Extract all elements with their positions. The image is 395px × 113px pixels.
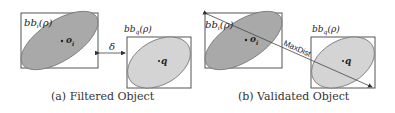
object-ellipse	[12, 0, 108, 81]
object-point	[61, 40, 63, 42]
object-point	[245, 39, 247, 41]
object-box-label: bbi(ρ)	[24, 17, 53, 29]
subfigure-a: bbi(ρ) oi δ bbq(ρ) q	[12, 0, 200, 99]
caption-filtered-object: (a) Filtered Object	[51, 90, 154, 103]
object-ellipse	[196, 0, 292, 81]
query-point-label: q	[345, 56, 351, 66]
maxdist-label: MaxDist	[282, 39, 313, 59]
subfigure-b: bbi(ρ) oi bbq(ρ) q MaxDist	[196, 0, 384, 99]
gap-indicator: δ	[99, 41, 125, 53]
query-point	[158, 60, 160, 62]
query-bounding-box: bbq(ρ) q	[119, 24, 200, 99]
caption-validated-object: (b) Validated Object	[238, 90, 349, 103]
object-bounding-box: bbi(ρ) oi	[12, 0, 108, 81]
gap-label: δ	[109, 41, 115, 52]
query-box-label: bbq(ρ)	[312, 24, 340, 36]
query-point	[342, 60, 344, 62]
query-box-label: bbq(ρ)	[124, 24, 152, 36]
query-point-label: q	[161, 56, 167, 66]
object-bounding-box: bbi(ρ) oi	[196, 0, 292, 81]
object-box-label: bbi(ρ)	[205, 19, 234, 31]
